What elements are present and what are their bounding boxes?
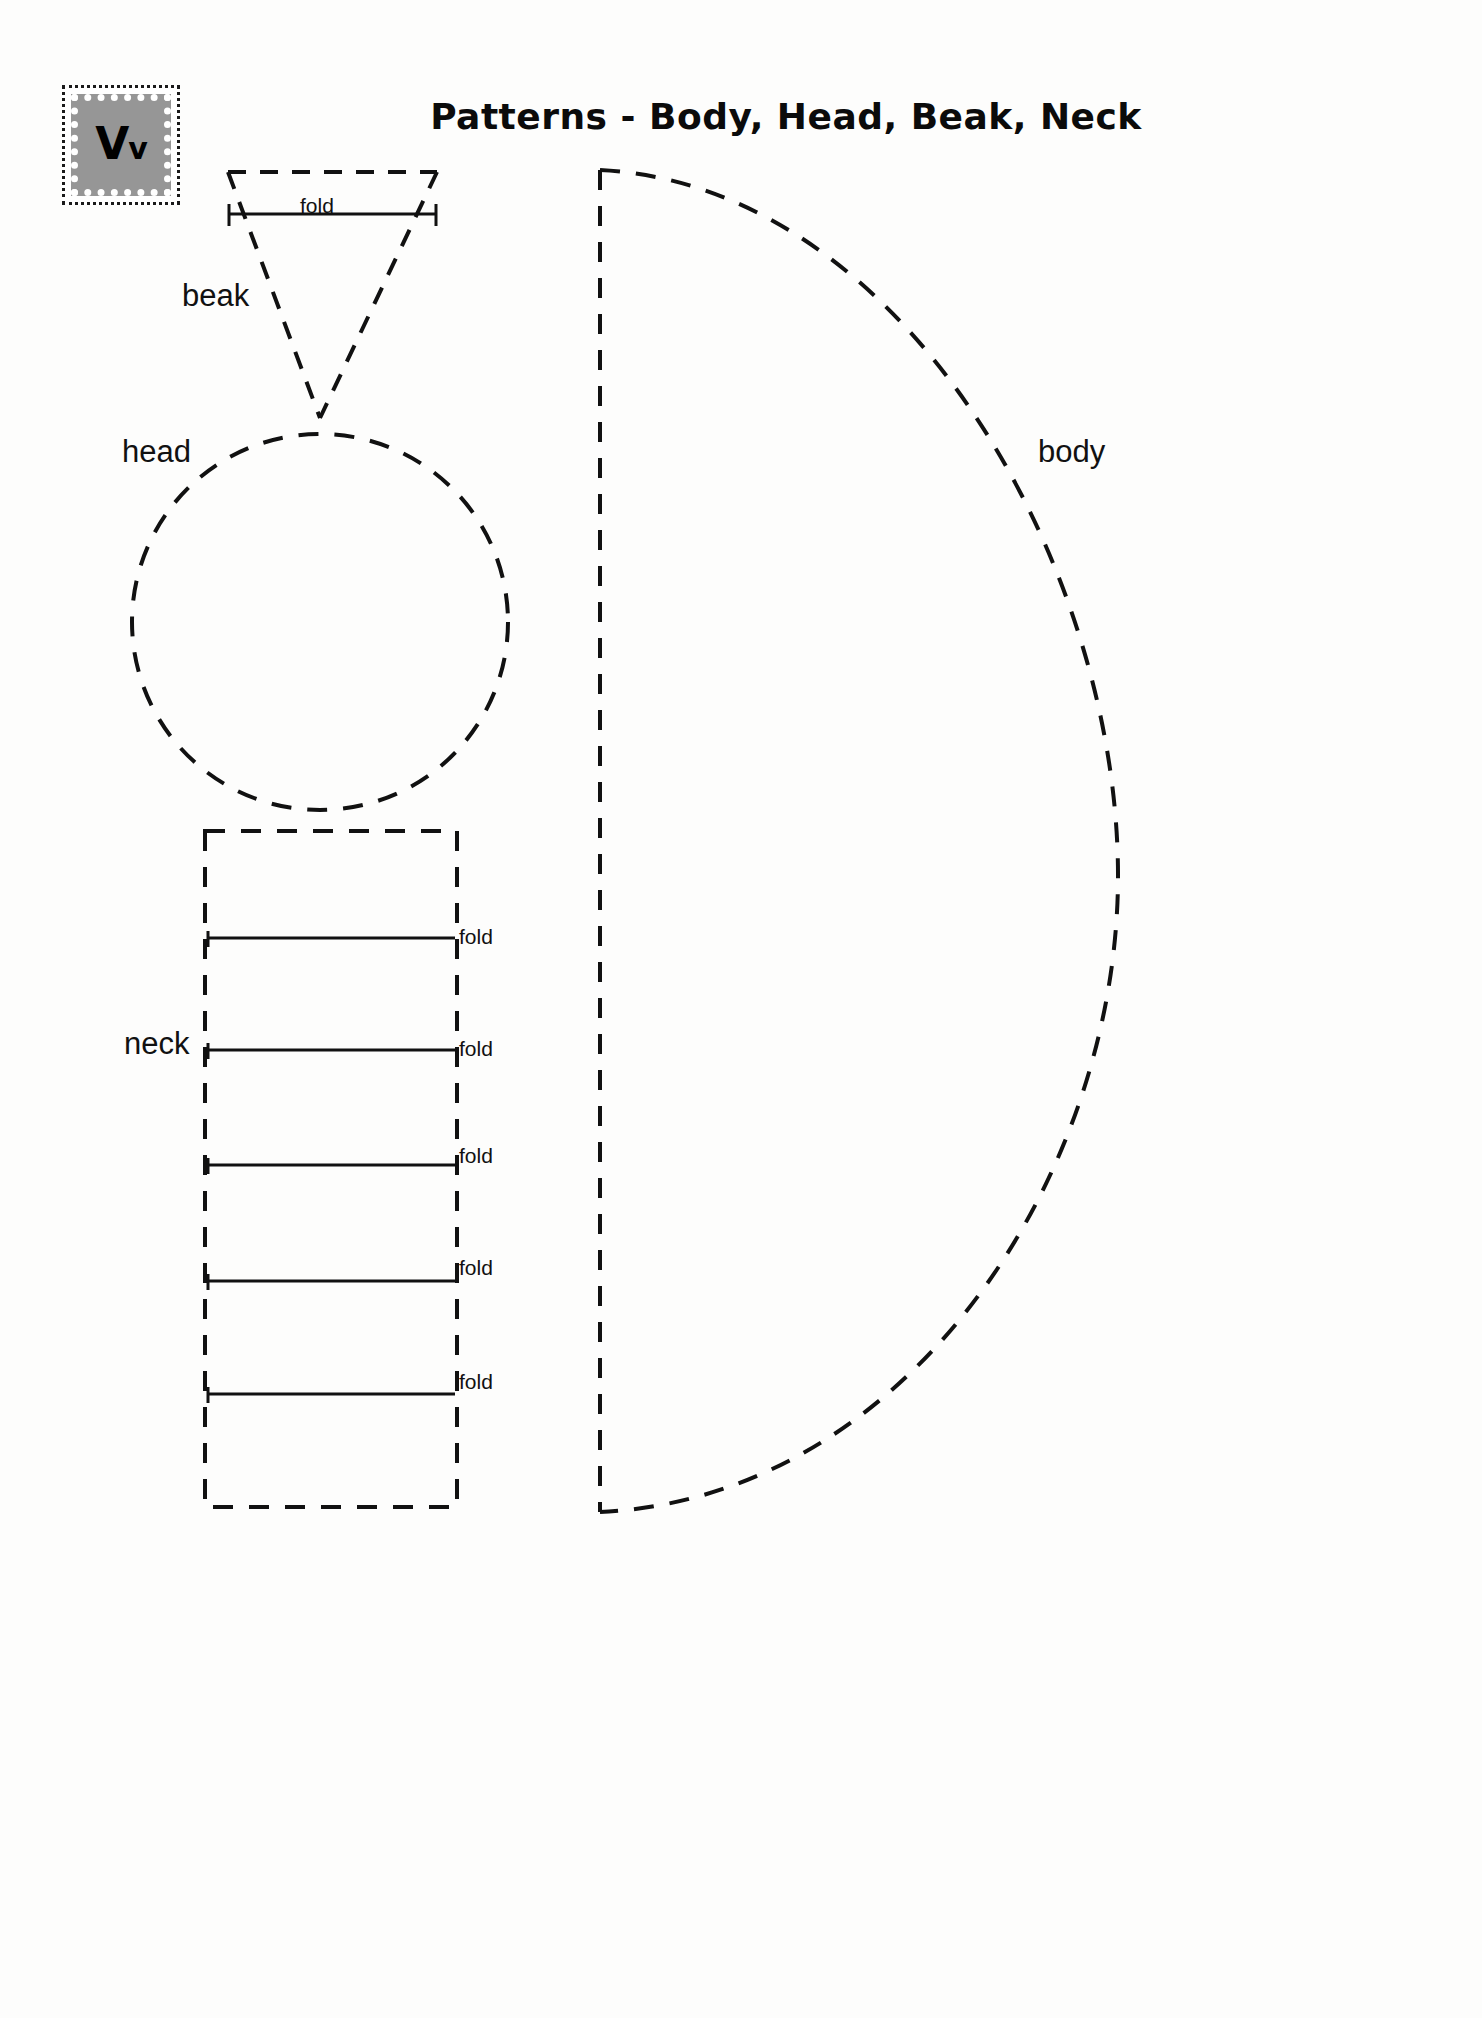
beak-fold-label: fold [300,194,334,218]
body-label: body [1038,434,1105,470]
neck-fold-label-5: fold [459,1370,493,1394]
neck-fold-label-2: fold [459,1037,493,1061]
beak-label: beak [182,278,249,314]
head-outline [132,434,508,810]
neck-fold-label-1: fold [459,925,493,949]
body-shape [600,170,1118,1512]
neck-shape [205,831,457,1507]
neck-fold-label-4: fold [459,1256,493,1280]
head-label: head [122,434,191,470]
worksheet-page: Vv Patterns - Body, Head, Beak, Neck [0,0,1482,2018]
neck-outline [205,831,457,1507]
head-shape [132,434,508,810]
beak-right-edge [320,172,437,418]
neck-fold-label-3: fold [459,1144,493,1168]
body-curved-edge [600,170,1118,1512]
neck-label: neck [124,1026,189,1062]
